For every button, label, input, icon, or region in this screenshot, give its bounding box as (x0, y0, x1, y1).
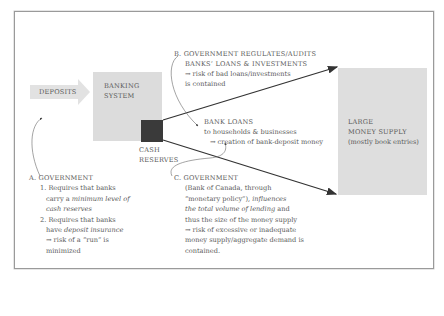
annotation-c-line3: “monetary policy”), influences (185, 194, 286, 205)
cash-reserves-box (141, 120, 163, 142)
deposits-label: DEPOSITS (39, 87, 77, 98)
annotation-b-line4: is contained (185, 79, 226, 90)
annotation-c-line5: thus the size of the money supply (185, 215, 297, 226)
annotation-b-line2: BANKS’ LOANS & INVESTMENTS (185, 59, 307, 70)
annotation-c-line3-emphasis: influences (252, 195, 286, 203)
annotation-c-line3-text: “monetary policy”), (185, 195, 252, 203)
annotation-a-item2-line1: 2. Requires that banks (40, 215, 116, 226)
annotation-a-item1-line1: 1. Requires that banks (40, 183, 116, 194)
bank-loans-label-1: BANK LOANS (204, 117, 253, 128)
annotation-a-item2-line4: minimized (46, 246, 81, 257)
annotation-a-item1-line3-emphasis: cash reserves (46, 205, 92, 213)
banking-system-label-2: SYSTEM (104, 91, 135, 102)
annotation-a-item1-line2: carry a minimum level of (46, 194, 130, 205)
annotation-c-line2: (Bank of Canada, through (185, 183, 271, 194)
annotation-a-item1-line2-emphasis: minimum level of (72, 195, 130, 203)
money-supply-label-2: MONEY SUPPLY (348, 127, 407, 138)
banking-system-label-1: BANKING (104, 81, 139, 92)
annotation-c-line4-text: and (275, 205, 290, 213)
cash-reserves-label-2: RESERVES (139, 155, 179, 166)
bank-loans-label-2: to households & businesses (204, 127, 297, 138)
annotation-c-line1: C. GOVERNMENT (174, 173, 238, 184)
annotation-a-item1-line2-text: carry a (46, 195, 72, 203)
annotation-a-item2-line2-text: have (46, 226, 64, 234)
annotation-c-line6: → risk of excessive or inadequate (185, 225, 296, 236)
annotation-a-item2-line2: have deposit insurance (46, 225, 123, 236)
annotation-c-line7: money supply/aggregate demand is (185, 235, 304, 246)
annotation-c-line8: contained. (185, 246, 220, 257)
money-supply-label-3: (mostly book entries) (348, 137, 419, 148)
annotation-c-line4-emphasis: the total volume of lending (185, 205, 275, 213)
money-supply-label-1: LARGE (348, 117, 373, 128)
annotation-b-line3: → risk of bad loans/investments (185, 69, 291, 80)
callout-a-curve (32, 118, 42, 176)
annotation-a-item2-line2-emphasis: deposit insurance (64, 226, 123, 234)
annotation-a-item1-line3: cash reserves (46, 204, 92, 215)
annotation-a-heading: A. GOVERNMENT (29, 173, 93, 184)
bank-loans-label-3: → creation of bank-deposit money (210, 137, 323, 148)
cash-reserves-label-1: CASH (139, 145, 160, 156)
annotation-a-item2-line3: → risk of a “run” is (46, 235, 109, 246)
callout-c-curve (171, 143, 226, 176)
annotation-c-line4: the total volume of lending and (185, 204, 290, 215)
annotation-b-line1: B. GOVERNMENT REGULATES/AUDITS (174, 49, 316, 60)
